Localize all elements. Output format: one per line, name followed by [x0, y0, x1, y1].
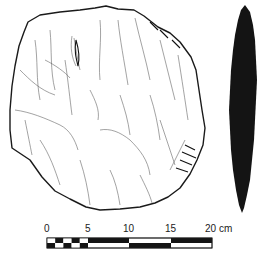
scale-label-10: 10 [123, 224, 134, 234]
artifact-face-view [10, 6, 205, 210]
scale-label-20cm: 20 cm [205, 224, 232, 234]
artifact-side-profile [229, 5, 257, 213]
scale-label-15: 15 [165, 224, 176, 234]
scale-label-5: 5 [85, 224, 91, 234]
scale-bar [47, 238, 212, 248]
artifact-drawing [0, 0, 263, 259]
artifact-outline [10, 6, 205, 210]
scale-label-0: 0 [44, 224, 50, 234]
